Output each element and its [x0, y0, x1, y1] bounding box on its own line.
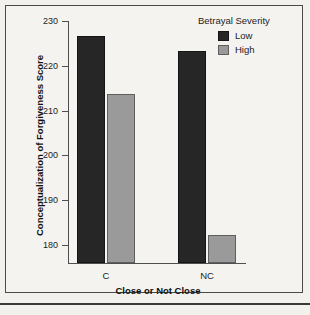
y-axis-tick: [62, 200, 68, 201]
bar-c-high: [107, 94, 135, 263]
legend-swatch-low-icon: [218, 31, 229, 41]
x-axis-line: [68, 263, 246, 264]
chart-figure: 180190200210220230 CNC Close or Not Clos…: [0, 0, 310, 315]
bar-nc-high: [208, 235, 236, 263]
y-axis-line: [68, 21, 69, 263]
bar-nc-low: [178, 51, 206, 263]
y-axis-tick: [62, 21, 68, 22]
y-axis-tick: [62, 155, 68, 156]
x-axis-label-c: C: [76, 270, 136, 281]
y-axis-tick: [62, 245, 68, 246]
legend-swatch-high-icon: [218, 45, 229, 55]
y-axis-tick-label: 230: [18, 17, 58, 26]
x-axis-label-nc: NC: [177, 270, 237, 281]
legend-label-low: Low: [235, 30, 252, 41]
y-axis-tick: [62, 111, 68, 112]
legend-item-high: High: [218, 44, 298, 55]
bottom-divider: [0, 303, 310, 305]
y-axis-tick: [62, 66, 68, 67]
legend-item-low: Low: [218, 30, 298, 41]
y-axis-title: Conceptualization of Forgiveness Score: [34, 31, 45, 261]
x-axis-title: Close or Not Close: [68, 285, 248, 296]
chart-legend: Betrayal Severity Low High: [198, 15, 298, 58]
legend-title: Betrayal Severity: [198, 15, 298, 26]
bar-chart-plot-area: 180190200210220230 CNC Close or Not Clos…: [0, 0, 310, 315]
legend-label-high: High: [235, 44, 255, 55]
bar-c-low: [77, 36, 105, 263]
